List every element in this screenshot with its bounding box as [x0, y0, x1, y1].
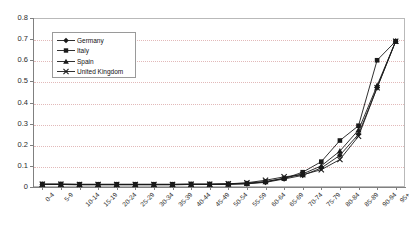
legend-item[interactable]: Italy — [56, 46, 132, 57]
square-marker-icon — [56, 46, 76, 55]
data-point — [375, 58, 380, 63]
legend-item-label: Italy — [77, 46, 89, 55]
chart-container: 0.80.70.60.50.40.30.20.10 0-45-910-1415-… — [0, 0, 416, 230]
legend-item[interactable]: United Kingdom — [56, 67, 132, 78]
cross-marker-icon — [56, 67, 76, 76]
legend-item[interactable]: Germany — [56, 35, 132, 46]
legend-item[interactable]: Spain — [56, 56, 132, 67]
triangle-marker-icon — [56, 57, 76, 66]
legend-item-label: United Kingdom — [77, 67, 123, 76]
diamond-marker-icon — [56, 36, 76, 45]
legend-item-label: Germany — [77, 36, 104, 45]
legend: GermanyItalySpainUnited Kingdom — [52, 32, 136, 78]
data-point — [338, 138, 343, 143]
legend-item-label: Spain — [77, 57, 94, 66]
